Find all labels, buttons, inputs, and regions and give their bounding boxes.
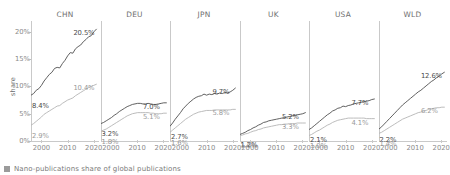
series-start-value-label: 1.0%: [310, 142, 327, 150]
x-axis-tick-label: 2010: [198, 144, 215, 152]
series-line-upper: [379, 72, 444, 129]
facet-title: DEU: [101, 10, 169, 19]
x-axis-tick-label: 2010: [267, 144, 284, 152]
x-axis-tick-label: 2000: [33, 144, 50, 152]
facet-title: JPN: [170, 10, 238, 19]
x-axis-tick-label: 2020: [433, 144, 450, 152]
plot-area: [101, 21, 169, 141]
facet-panel-uk: UK2000201020201.2%5.2%1.0%3.3%: [240, 10, 308, 152]
series-start-value-label: 1.4%: [380, 140, 397, 148]
facet-panel-usa: USA2000201020202.1%7.7%1.0%4.1%: [309, 10, 377, 152]
y-axis-tick-label: 5%: [4, 110, 30, 118]
y-axis-tick-label: 10%: [4, 82, 30, 90]
series-start-value-label: 1.8%: [102, 138, 119, 146]
series-end-value-label: 10.4%: [73, 84, 94, 92]
plot-area: [31, 21, 99, 141]
series-end-value-label: 7.0%: [143, 103, 160, 111]
x-axis-tick-label: 2010: [59, 144, 76, 152]
x-axis-tick-label: 2010: [337, 144, 354, 152]
y-axis-tick-label: 15%: [4, 55, 30, 63]
chart-caption: Nano-publications share of global public…: [4, 165, 181, 173]
facet-title: UK: [240, 10, 308, 19]
legend-swatch-icon: [4, 166, 10, 172]
series-end-value-label: 5.1%: [143, 113, 160, 121]
series-end-value-label: 5.8%: [212, 109, 229, 117]
series-end-value-label: 7.7%: [351, 99, 368, 107]
plot-area: [379, 21, 447, 141]
series-end-value-label: 9.7%: [212, 88, 229, 96]
y-axis-tick-label: 20%: [4, 28, 30, 36]
facet-panel-deu: DEU2000201020203.2%7.0%1.8%5.1%: [101, 10, 169, 152]
series-start-value-label: 1.6%: [171, 139, 188, 147]
series-end-value-label: 4.1%: [351, 119, 368, 127]
series-end-value-label: 20.5%: [73, 29, 94, 37]
facet-title: WLD: [379, 10, 447, 19]
plot-area: [170, 21, 238, 141]
y-axis-tick-label: 0%: [4, 137, 30, 145]
y-axis: 0%5%10%15%20%: [0, 0, 30, 152]
series-end-value-label: 3.3%: [282, 123, 299, 131]
series-end-value-label: 6.2%: [421, 107, 438, 115]
facet-title: USA: [309, 10, 377, 19]
facet-title: CHN: [31, 10, 99, 19]
series-start-value-label: 8.4%: [32, 102, 49, 110]
facet-panel-jpn: JPN2000201020202.7%9.7%1.6%5.8%: [170, 10, 238, 152]
facet-panel-chn: CHN2000201020208.4%20.5%2.9%10.4%: [31, 10, 99, 152]
x-axis-tick-label: 2010: [406, 144, 423, 152]
caption-text: Nano-publications share of global public…: [14, 165, 181, 173]
facet-panel-wld: WLD2000201020202.2%12.6%1.4%6.2%: [379, 10, 447, 152]
x-axis-tick-label: 2010: [128, 144, 145, 152]
series-end-value-label: 12.6%: [421, 72, 442, 80]
series-end-value-label: 5.2%: [282, 113, 299, 121]
series-start-value-label: 1.0%: [241, 142, 258, 150]
series-start-value-label: 2.9%: [32, 132, 49, 140]
